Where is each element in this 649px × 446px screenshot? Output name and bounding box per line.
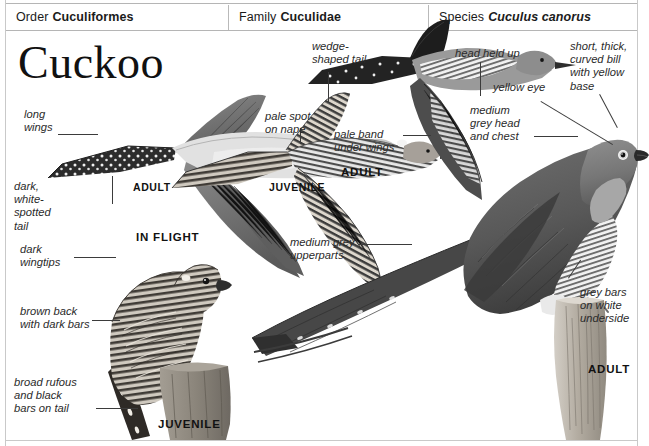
leader-dark-wingtips [74, 257, 116, 258]
annotation-broad-rufous-and-black-bars-on-tail: broad rufous and black bars on tail [14, 376, 77, 416]
annotation-medium-grey-upperparts: medium grey upperparts [290, 236, 355, 262]
annotation-pale-band-under-wings: pale band under wings [334, 128, 394, 154]
annotation-medium-grey-head-and-chest: medium grey head and chest [470, 104, 520, 144]
illustration-plate [0, 0, 649, 446]
annotation-long-wings: long wings [24, 108, 53, 134]
leader-broad-rufous-bars [96, 408, 138, 409]
leader-grey-upperparts [358, 244, 412, 245]
annotation-grey-bars-on-white-underside: grey bars on white underside [580, 286, 629, 326]
leader-long-wings [58, 134, 98, 135]
annotation-pale-spot-on-nape: pale spot on nape [265, 110, 310, 136]
leader-dark-spotted-tail [112, 176, 113, 204]
caption-in-flight: IN FLIGHT [136, 231, 199, 243]
caption-adult-flight-top: ADULT [341, 166, 383, 178]
annotation-short-thick-curved-bill: short, thick, curved bill with yellow ba… [570, 40, 627, 93]
caption-juvenile-perched: JUVENILE [158, 418, 221, 430]
leader-head-held-up [480, 62, 481, 96]
annotation-yellow-eye: yellow eye [493, 81, 545, 94]
leader-pale-band [403, 135, 431, 136]
annotation-brown-back-with-dark-bars: brown back with dark bars [20, 305, 90, 331]
leader-brown-back [92, 320, 120, 321]
annotation-dark-wingtips: dark wingtips [20, 243, 60, 269]
caption-adult-flight-left: ADULT [133, 181, 171, 193]
annotation-head-held-up: head held up [455, 47, 520, 60]
juvenile-perched-illustration [108, 265, 232, 440]
annotation-wedge-shaped-tail: wedge- shaped tail [312, 40, 366, 66]
caption-adult-perched: ADULT [588, 363, 630, 375]
field-guide-page: Order Cuculiformes Family Cuculidae Spec… [0, 0, 649, 446]
leader-grey-head-chest [534, 136, 578, 137]
caption-juvenile-flight: JUVENILE [269, 181, 325, 193]
leader-wedge-tail [328, 72, 329, 102]
annotation-dark-white-spotted-tail: dark, white- spotted tail [14, 180, 51, 233]
